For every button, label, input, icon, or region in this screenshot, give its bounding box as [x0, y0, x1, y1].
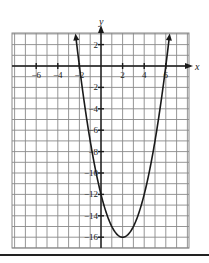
- y-tick-label: 2: [94, 40, 99, 50]
- y-tick-label: −6: [88, 125, 98, 135]
- y-tick-label: −2: [88, 82, 98, 92]
- y-tick-label: −14: [84, 211, 99, 221]
- y-axis-label: y: [98, 16, 104, 27]
- x-tick-label: 2: [120, 70, 125, 80]
- x-tick-label: −6: [31, 70, 41, 80]
- bottom-rule: [0, 254, 209, 256]
- curve-right-arrow-icon: [166, 33, 172, 40]
- y-tick-label: −4: [88, 104, 98, 114]
- y-tick-label: −16: [84, 232, 99, 242]
- curve-left-arrow-icon: [73, 33, 79, 40]
- x-axis-label: x: [194, 61, 200, 72]
- x-tick-label: 4: [142, 70, 147, 80]
- parabola-graph: x y −6−4−22462−2−4−6−8−10−12−14−16: [0, 0, 209, 263]
- x-tick-label: −4: [53, 70, 63, 80]
- y-tick-label: −12: [84, 189, 98, 199]
